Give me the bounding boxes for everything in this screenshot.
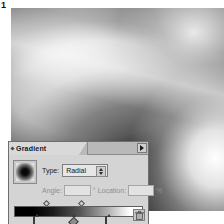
gradient-type-select[interactable]: Radial — [62, 164, 108, 177]
gradient-color-stop[interactable] — [70, 217, 77, 224]
location-field[interactable] — [128, 185, 154, 196]
degree-symbol: ° — [93, 187, 96, 195]
percent-symbol: % — [156, 187, 162, 195]
tab-gradient-label: Gradient — [16, 145, 46, 153]
triangle-right-icon — [140, 145, 144, 151]
palette-body: Type: Radial Angle: ° Location: % — [9, 155, 148, 224]
palette-menu-button[interactable] — [137, 143, 147, 153]
angle-field[interactable] — [64, 185, 91, 196]
trash-icon[interactable] — [133, 209, 145, 221]
gradient-preview-swatch[interactable] — [13, 160, 37, 184]
gradient-color-stop[interactable] — [33, 217, 40, 224]
gradient-preview-swatch-fill — [16, 163, 34, 181]
gradient-color-stop[interactable] — [105, 217, 112, 224]
tab-slant-decoration — [79, 142, 88, 155]
diamond-grip-icon — [9, 142, 16, 155]
gradient-slider-area — [14, 200, 143, 222]
gradient-angle-location-row: Angle: ° Location: % — [42, 185, 162, 196]
palette-tabstrip: Gradient — [9, 142, 148, 155]
location-label: Location: — [98, 187, 126, 195]
stepper-up-down-icon[interactable] — [96, 166, 106, 177]
tab-gradient[interactable]: Gradient — [9, 142, 83, 155]
figure-number: 1 — [1, 1, 6, 10]
gradient-palette: Gradient Type: Radial — [8, 141, 149, 224]
screenshot-root: 1 Gradient — [0, 0, 224, 224]
gradient-type-row: Type: Radial — [42, 164, 108, 177]
angle-label: Angle: — [42, 187, 62, 195]
gradient-type-label: Type: — [42, 167, 59, 175]
gradient-type-value: Radial — [66, 167, 86, 175]
